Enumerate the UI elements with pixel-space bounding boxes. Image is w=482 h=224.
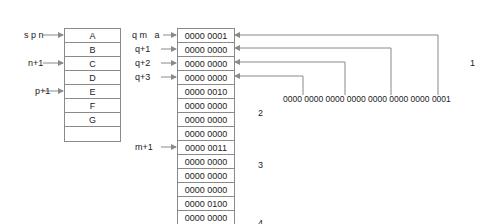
memory-cell: 0000 0000 <box>178 113 234 127</box>
memory-cell: 0000 0001 <box>178 29 234 43</box>
pointer-label-p1: p+1 <box>35 86 50 96</box>
pointer-label-qm-a: q m a <box>132 30 160 40</box>
memory-cell: 0000 0000 <box>178 169 234 183</box>
memory-cell: 0000 0000 <box>178 211 234 224</box>
pointer-label-q2: q+2 <box>135 58 150 68</box>
memory-cell: 0000 0000 <box>178 99 234 113</box>
pointer-label-spn: s p n <box>24 30 44 40</box>
memory-cell: C <box>65 57 120 71</box>
memory-cell: 0000 0100 <box>178 197 234 211</box>
char-memory-table: A B C D E F G <box>64 28 121 142</box>
memory-cell: G <box>65 113 120 127</box>
memory-cell <box>65 127 120 141</box>
memory-cell: A <box>65 29 120 43</box>
group-label-1: 1 <box>470 58 475 68</box>
pointer-label-q1: q+1 <box>135 44 150 54</box>
memory-cell: E <box>65 85 120 99</box>
binary-value: 0000 0000 0000 0000 0000 0000 0000 0001 <box>283 94 451 104</box>
memory-cell: F <box>65 99 120 113</box>
group-label-3: 3 <box>258 160 263 170</box>
int-memory-table: 0000 0001 0000 0000 0000 0000 0000 0000 … <box>177 28 235 224</box>
group-label-2: 2 <box>258 108 263 118</box>
pointer-label-n1: n+1 <box>28 58 43 68</box>
pointer-label-m1: m+1 <box>135 142 153 152</box>
memory-cell: 0000 0000 <box>178 127 234 141</box>
memory-cell: B <box>65 43 120 57</box>
memory-cell: 0000 0000 <box>178 183 234 197</box>
memory-cell: 0000 0000 <box>178 155 234 169</box>
memory-cell: D <box>65 71 120 85</box>
memory-cell: 0000 0000 <box>178 57 234 71</box>
group-label-4: 4 <box>258 218 263 224</box>
memory-cell: 0000 0011 <box>178 141 234 155</box>
pointer-label-q3: q+3 <box>135 72 150 82</box>
memory-cell: 0000 0010 <box>178 85 234 99</box>
memory-cell: 0000 0000 <box>178 71 234 85</box>
memory-cell: 0000 0000 <box>178 43 234 57</box>
